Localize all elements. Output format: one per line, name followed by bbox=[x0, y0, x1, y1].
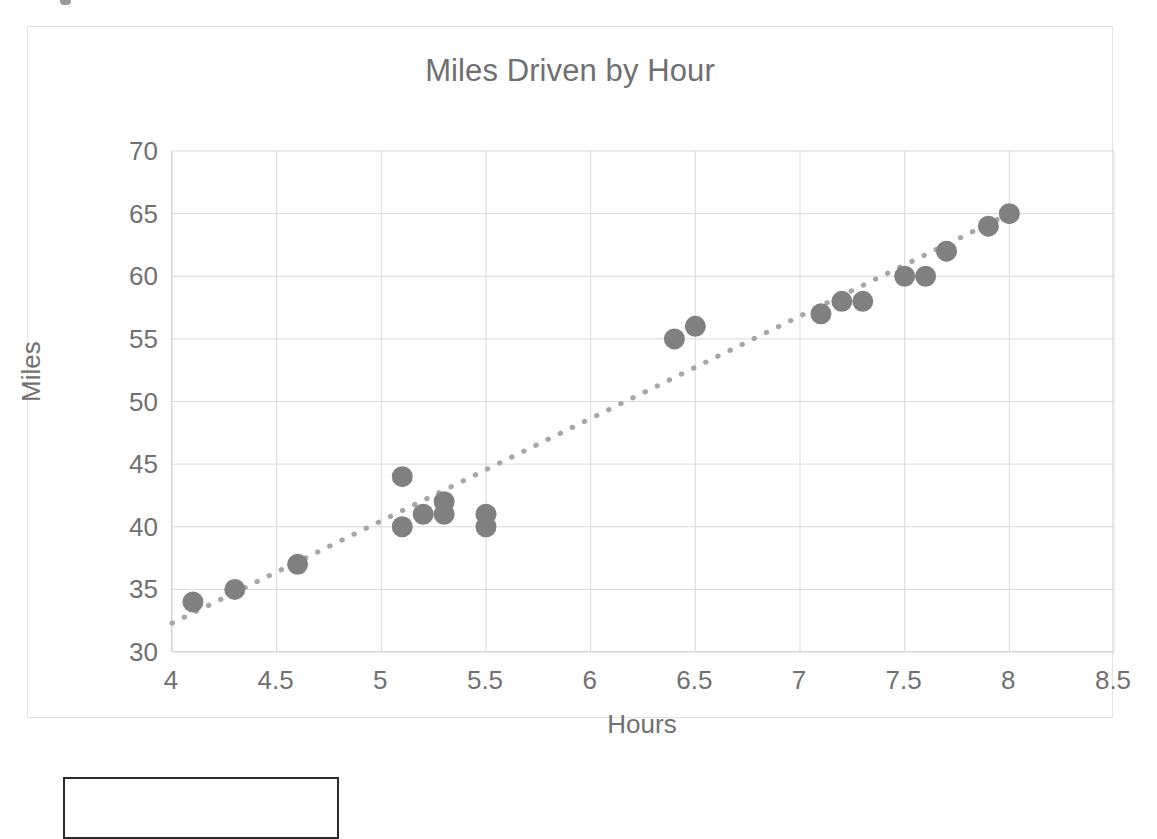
plot-area[interactable] bbox=[171, 151, 1113, 652]
y-tick-label: 35 bbox=[98, 574, 158, 605]
y-tick-label: 30 bbox=[98, 637, 158, 668]
y-axis-title: Miles bbox=[16, 341, 47, 402]
x-tick-label: 5 bbox=[335, 665, 425, 696]
y-tick-label: 55 bbox=[98, 323, 158, 354]
y-axis-tick-labels: 303540455055606570 bbox=[96, 151, 158, 652]
x-axis-title: Hours bbox=[171, 709, 1113, 740]
x-tick-label: 7 bbox=[754, 665, 844, 696]
y-tick-label: 50 bbox=[98, 386, 158, 417]
y-tick-label: 70 bbox=[98, 136, 158, 167]
x-tick-label: 6.5 bbox=[649, 665, 739, 696]
x-tick-label: 4.5 bbox=[231, 665, 321, 696]
x-tick-label: 6 bbox=[545, 665, 635, 696]
x-axis-tick-labels: 44.555.566.577.588.5 bbox=[171, 665, 1113, 705]
y-tick-label: 40 bbox=[98, 511, 158, 542]
x-tick-label: 4 bbox=[126, 665, 216, 696]
x-tick-label: 8.5 bbox=[1068, 665, 1157, 696]
data-point-markers bbox=[182, 203, 1019, 612]
horizontal-gridlines bbox=[172, 151, 1114, 652]
chart-frame[interactable]: Miles Driven by Hour Miles 3035404550556… bbox=[27, 26, 1113, 718]
y-tick-label: 65 bbox=[98, 198, 158, 229]
x-tick-label: 7.5 bbox=[859, 665, 949, 696]
scatter-plot-canvas bbox=[172, 151, 1114, 652]
y-tick-label: 60 bbox=[98, 261, 158, 292]
y-tick-label: 45 bbox=[98, 449, 158, 480]
scan-artifact-mark bbox=[60, 0, 71, 5]
x-tick-label: 8 bbox=[963, 665, 1053, 696]
x-tick-label: 5.5 bbox=[440, 665, 530, 696]
chart-title: Miles Driven by Hour bbox=[28, 53, 1112, 89]
empty-caption-box[interactable] bbox=[63, 777, 339, 839]
